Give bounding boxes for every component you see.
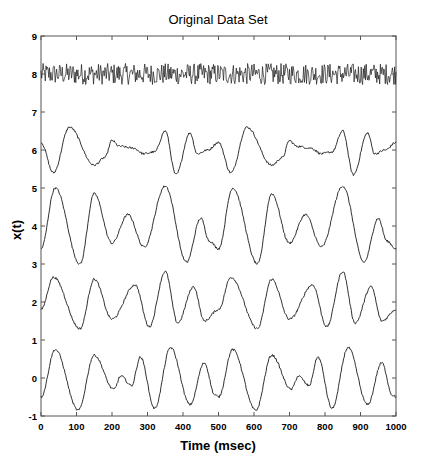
x-tick-label: 900 <box>353 421 369 432</box>
y-tick-label: 7 <box>32 107 37 118</box>
y-tick-label: -1 <box>29 411 38 422</box>
y-tick-label: 1 <box>32 335 38 346</box>
y-tick-label: 8 <box>32 69 37 80</box>
chart-title: Original Data Set <box>169 12 268 27</box>
y-tick-label: 3 <box>32 259 37 270</box>
x-tick-label: 400 <box>175 421 191 432</box>
x-tick-label: 100 <box>69 421 85 432</box>
x-tick-label: 300 <box>140 421 156 432</box>
y-axis-label: x(t) <box>9 220 24 240</box>
x-tick-label: 200 <box>104 421 120 432</box>
x-axis-label: Time (msec) <box>180 438 256 453</box>
y-tick-label: 5 <box>32 183 38 194</box>
x-tick-label: 600 <box>246 421 262 432</box>
axes-frame <box>41 36 396 416</box>
chart-canvas: Original Data Set 0100200300400500600700… <box>0 0 423 472</box>
x-tick-label: 500 <box>211 421 227 432</box>
x-tick-label: 0 <box>38 421 43 432</box>
x-tick-label: 800 <box>317 421 333 432</box>
y-tick-label: 0 <box>32 373 37 384</box>
y-tick-label: 4 <box>32 221 38 232</box>
y-tick-label: 2 <box>32 297 37 308</box>
x-tick-label: 700 <box>282 421 298 432</box>
plot-area <box>41 36 396 416</box>
y-tick-label: 6 <box>32 145 37 156</box>
x-tick-label: 1000 <box>385 421 406 432</box>
y-tick-label: 9 <box>32 31 37 42</box>
